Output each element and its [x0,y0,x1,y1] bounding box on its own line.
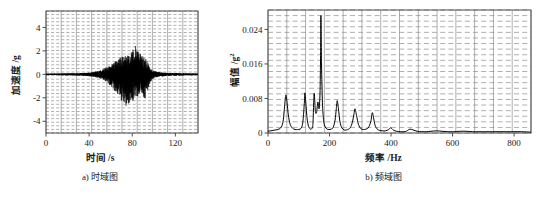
svg-text:400: 400 [384,138,398,148]
svg-text:0: 0 [36,70,41,80]
frequency-domain-caption: b) 频域图 [236,170,531,183]
frequency-domain-x-axis-title: 频率 /Hz [236,150,531,164]
figure-container: 04080120-4-2024 加速度 /g 时间 /s a) 时域图 0200… [0,0,551,203]
panel-time-domain: 04080120-4-2024 加速度 /g 时间 /s a) 时域图 [0,0,228,203]
svg-text:200: 200 [323,138,337,148]
svg-text:0.024: 0.024 [242,25,263,35]
svg-text:4: 4 [36,23,41,33]
frequency-domain-chart: 020040060080000.0080.0160.024 [228,0,551,165]
panel-frequency-domain: 020040060080000.0080.0160.024 幅值 /g2 频率 … [228,0,551,203]
svg-text:0.016: 0.016 [242,59,263,69]
svg-text:0: 0 [258,128,263,138]
svg-text:0: 0 [44,138,49,148]
frequency-domain-y-axis-title-superscript: 2 [228,54,235,57]
svg-text:80: 80 [128,138,138,148]
svg-text:-4: -4 [33,116,41,126]
svg-text:0.008: 0.008 [242,94,263,104]
time-domain-x-axis-title: 时间 /s [0,150,200,164]
svg-text:600: 600 [446,138,460,148]
svg-text:120: 120 [169,138,183,148]
time-domain-caption: a) 时域图 [0,170,200,183]
frequency-domain-y-axis-title: 幅值 /g2 [227,40,241,100]
time-domain-chart: 04080120-4-2024 [0,0,228,165]
svg-text:-2: -2 [33,93,41,103]
time-domain-y-axis-title: 加速度 /g [8,47,22,103]
svg-text:0: 0 [266,138,271,148]
svg-text:40: 40 [85,138,95,148]
frequency-domain-y-axis-title-text: 幅值 /g [230,57,240,87]
svg-text:800: 800 [507,138,521,148]
svg-text:2: 2 [36,46,41,56]
